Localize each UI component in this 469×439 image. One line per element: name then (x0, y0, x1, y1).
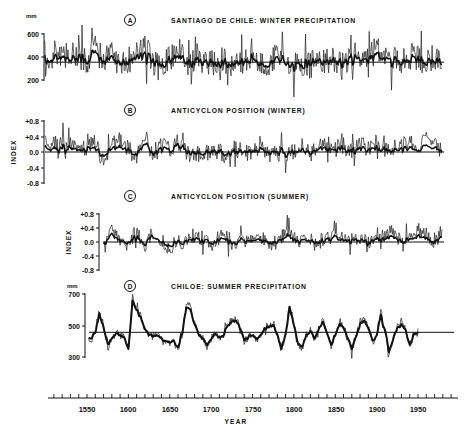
svg-text:-0.8: -0.8 (82, 267, 94, 274)
svg-text:1950: 1950 (410, 405, 427, 414)
panel-a-title: SANTIAGO DE CHILE: WINTER PRECIPITATION (171, 17, 356, 24)
panel-c-series (104, 215, 445, 256)
panel-d: mm D CHILOE: SUMMER PRECIPITATION 700 50… (67, 281, 454, 361)
svg-text:1550: 1550 (79, 405, 96, 414)
panel-d-y-ticks: 700 500 300 (68, 291, 85, 361)
panel-b: B ANTICYCLON POSITION (WINTER) INDEX +0.… (10, 105, 444, 187)
panel-d-unit: mm (67, 283, 78, 289)
svg-text:-0.4: -0.4 (82, 253, 94, 260)
x-axis: 1550 1600 1650 1700 1750 1800 1850 1900 … (48, 394, 458, 425)
svg-text:1600: 1600 (120, 405, 137, 414)
panel-a: mm A SANTIAGO DE CHILE: WINTER PRECIPITA… (26, 13, 444, 97)
svg-text:+0.4: +0.4 (25, 134, 39, 141)
panel-b-title: ANTICYCLON POSITION (WINTER) (171, 107, 306, 115)
x-axis-ticks (54, 394, 451, 398)
panel-b-marker-letter: B (128, 107, 133, 114)
panel-a-series (45, 25, 444, 97)
annual-series-line (45, 123, 442, 173)
svg-text:300: 300 (68, 354, 80, 361)
panel-d-title: CHILOE: SUMMER PRECIPITATION (171, 283, 307, 290)
svg-text:1750: 1750 (245, 405, 262, 414)
svg-text:+0.4: +0.4 (80, 225, 94, 232)
svg-text:+0.8: +0.8 (25, 118, 39, 125)
svg-text:1850: 1850 (328, 405, 345, 414)
svg-text:600: 600 (27, 31, 39, 38)
x-axis-tick-labels: 1550 1600 1650 1700 1750 1800 1850 1900 … (79, 405, 427, 414)
annual-series-line (89, 294, 418, 358)
svg-text:200: 200 (27, 77, 39, 84)
figure: mm A SANTIAGO DE CHILE: WINTER PRECIPITA… (0, 0, 469, 439)
panel-d-series (89, 294, 454, 358)
svg-text:0.0: 0.0 (84, 239, 94, 246)
panel-b-series (45, 123, 444, 173)
panel-b-unit: INDEX (10, 140, 17, 165)
panel-c-y-ticks: +0.8 +0.4 0.0 -0.4 -0.8 (80, 211, 99, 274)
svg-text:-0.8: -0.8 (27, 180, 39, 187)
smoothed-series-line (104, 233, 443, 246)
panel-c-marker-letter: C (128, 193, 133, 200)
svg-text:700: 700 (68, 291, 80, 298)
panel-d-marker-letter: D (128, 283, 133, 290)
panel-a-marker-letter: A (128, 17, 133, 24)
panel-c-unit: INDEX (65, 230, 72, 255)
panel-a-unit: mm (26, 13, 37, 19)
panel-c-title: ANTICYCLON POSITION (SUMMER) (171, 193, 309, 201)
svg-text:1650: 1650 (162, 405, 179, 414)
svg-text:400: 400 (27, 54, 39, 61)
svg-text:+0.8: +0.8 (80, 211, 94, 218)
svg-text:0.0: 0.0 (29, 149, 39, 156)
smoothed-series-line (45, 143, 442, 157)
panel-c: C ANTICYCLON POSITION (SUMMER) INDEX +0.… (65, 191, 444, 274)
svg-text:1800: 1800 (286, 405, 303, 414)
x-axis-label: YEAR (225, 418, 248, 425)
svg-text:-0.4: -0.4 (27, 165, 39, 172)
svg-text:1900: 1900 (369, 405, 386, 414)
panel-a-y-ticks: 600 400 200 (27, 31, 44, 84)
panel-b-y-ticks: +0.8 +0.4 0.0 -0.4 -0.8 (25, 118, 44, 187)
svg-text:500: 500 (68, 323, 80, 330)
svg-text:1700: 1700 (203, 405, 220, 414)
